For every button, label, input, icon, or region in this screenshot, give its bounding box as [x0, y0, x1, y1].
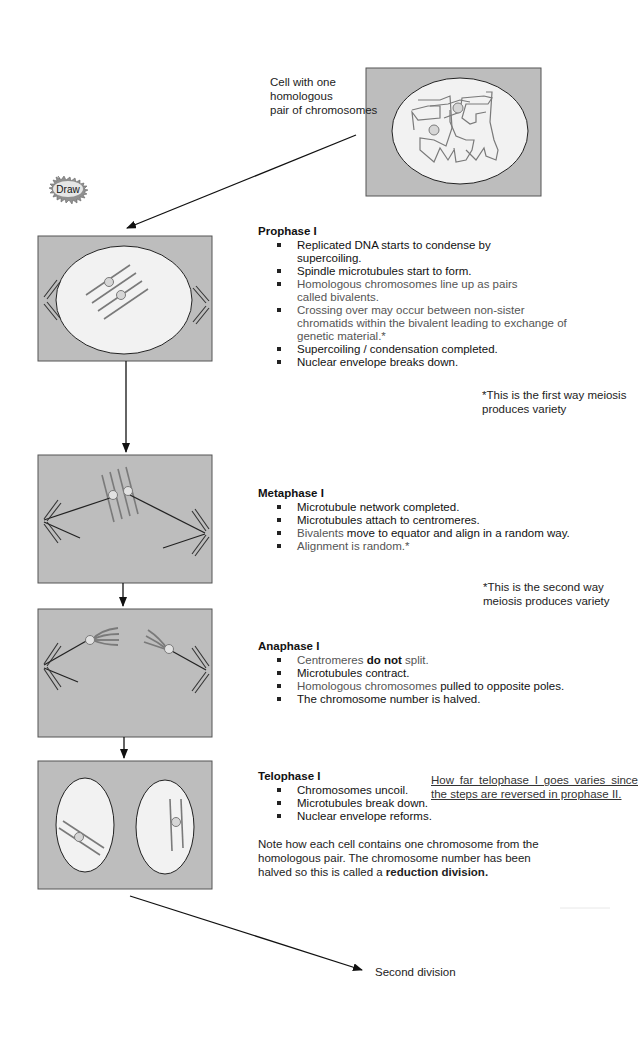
- centromere-icon: [165, 645, 174, 654]
- intro-cell-diagram: [366, 68, 541, 196]
- prophase-cell-diagram: [38, 236, 212, 361]
- telophase-side-note: How far telophase I goes varies since th…: [431, 773, 638, 801]
- bullet-dark-text: pulled to opposite poles.: [437, 680, 564, 692]
- bullet-text: split.: [402, 654, 429, 666]
- summary-bold-text: reduction division.: [386, 866, 488, 878]
- telophase-cell-diagram: [38, 761, 212, 889]
- second-division-label: Second division: [375, 965, 456, 979]
- metaphase-text-block: Metaphase I Microtubule network complete…: [258, 487, 578, 553]
- stage-title: Prophase I: [258, 225, 558, 238]
- anaphase-cell-diagram: [38, 609, 212, 737]
- centromere-icon: [109, 491, 118, 500]
- list-item: Replicated DNA starts to condense by sup…: [277, 239, 558, 265]
- intro-label-line: pair of chromosomes: [270, 103, 390, 117]
- bullet-grey-text: Bivalents: [297, 527, 344, 539]
- list-item: Microtubule network completed.: [277, 501, 578, 514]
- list-item: Microtubules attach to centromeres.: [277, 514, 578, 527]
- stage-title: Metaphase I: [258, 487, 578, 500]
- list-item: Microtubules contract.: [277, 667, 578, 680]
- list-item: Alignment is random.*: [277, 540, 578, 553]
- list-item: Bivalents move to equator and align in a…: [277, 527, 578, 540]
- list-item: Microtubules break down.: [277, 797, 438, 810]
- intro-label-line: Cell with one homologous: [270, 75, 390, 103]
- metaphase-bullet-list: Microtubule network completed. Microtubu…: [258, 501, 578, 553]
- list-item: Nuclear envelope reforms.: [277, 810, 438, 823]
- list-item: The chromosome number is halved.: [277, 693, 578, 706]
- prophase-text-block: Prophase I Replicated DNA starts to cond…: [258, 225, 558, 369]
- centromere-icon: [75, 833, 84, 842]
- draw-badge: Draw: [49, 176, 88, 204]
- metaphase-cell-diagram: [38, 455, 212, 583]
- centromere-icon: [86, 636, 95, 645]
- list-item: Homologous chromosomes line up as pairs …: [277, 278, 529, 304]
- metaphase-footnote: *This is the second way meiosis produces…: [483, 580, 628, 608]
- bullet-dark-text: move to equator and align in a random wa…: [344, 527, 570, 539]
- intro-label: Cell with one homologous pair of chromos…: [270, 75, 390, 117]
- centromere-icon: [124, 487, 133, 496]
- centromere-icon: [453, 103, 463, 113]
- prophase-footnote: *This is the first way meiosis produces …: [482, 388, 632, 416]
- bullet-bold-text: do not: [367, 654, 402, 666]
- centromere-icon: [172, 818, 181, 827]
- centromere-icon: [429, 125, 439, 135]
- centromere-icon: [117, 291, 126, 300]
- svg-text:Draw: Draw: [56, 184, 80, 195]
- list-item: Homologous chromosomes pulled to opposit…: [277, 680, 578, 693]
- centromere-icon: [105, 278, 114, 287]
- stage-title: Anaphase I: [258, 640, 578, 653]
- bullet-grey-text: Homologous chromosomes: [297, 680, 437, 692]
- list-item: Nuclear envelope breaks down.: [277, 356, 558, 369]
- list-item: Centromeres do not split.: [277, 654, 578, 667]
- list-item: Supercoiling / condensation completed.: [277, 343, 558, 356]
- list-item: Chromosomes uncoil.: [277, 784, 438, 797]
- anaphase-bullet-list: Centromeres do not split. Microtubules c…: [258, 654, 578, 706]
- flow-arrow: [127, 135, 356, 228]
- telophase-bullet-list: Chromosomes uncoil. Microtubules break d…: [258, 784, 438, 823]
- stage-title: Telophase I: [258, 770, 438, 783]
- flow-arrow: [130, 896, 362, 970]
- list-item: Crossing over may occur between non-sist…: [277, 304, 577, 343]
- bullet-text: Centromeres: [297, 654, 367, 666]
- anaphase-text-block: Anaphase I Centromeres do not split. Mic…: [258, 640, 578, 706]
- list-item: Spindle microtubules start to form.: [277, 265, 558, 278]
- telophase-text-block: Telophase I Chromosomes uncoil. Microtub…: [258, 770, 438, 823]
- prophase-bullet-list: Replicated DNA starts to condense by sup…: [258, 239, 558, 369]
- telophase-summary: Note how each cell contains one chromoso…: [258, 837, 548, 879]
